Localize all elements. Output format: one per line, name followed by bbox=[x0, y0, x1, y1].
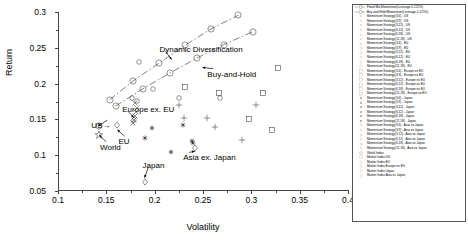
legend-marker-icon bbox=[354, 173, 367, 178]
chart-annotation: Europe ex. EU bbox=[122, 105, 174, 114]
chart-annotation: Dynamic Diversification bbox=[160, 45, 243, 54]
x-axis-tick-label: 0.25 bbox=[183, 195, 223, 205]
chart-annotation: Japan bbox=[143, 161, 165, 170]
chart-annotation: US→ bbox=[91, 121, 110, 130]
x-axis-tick-label: 0.15 bbox=[86, 195, 126, 205]
x-axis-tick-label: 0.35 bbox=[280, 195, 320, 205]
chart-annotation: Asia ex. Japan bbox=[183, 153, 235, 162]
legend-item[interactable]: Market Index:Asia ex Japan bbox=[353, 173, 465, 178]
plot-area: 0.050.10.150.20.250.30.10.150.20.250.30.… bbox=[58, 12, 348, 191]
x-axis-tick bbox=[348, 190, 349, 194]
y-axis-tick-label: 0.15 bbox=[6, 114, 46, 124]
x-axis-tick-label: 0.3 bbox=[231, 195, 271, 205]
annotation-arrows bbox=[58, 12, 348, 191]
chart-annotation: EU bbox=[118, 137, 129, 146]
y-axis-tick-label: 0.25 bbox=[6, 43, 46, 53]
x-axis-title: Volatility bbox=[186, 222, 219, 232]
y-axis-tick-label: 0.2 bbox=[6, 79, 46, 89]
chart-legend[interactable]: Fixed Mix Momentum(Leverage 0-125%) Buy … bbox=[352, 4, 466, 222]
chart-annotation: Buy-and-Hold bbox=[207, 70, 256, 79]
x-axis-tick-label: 0.1 bbox=[38, 195, 78, 205]
legend-label: Market Index:Asia ex Japan bbox=[367, 173, 405, 178]
x-axis-tick-label: 0.2 bbox=[135, 195, 175, 205]
y-axis-tick-label: 0.3 bbox=[6, 7, 46, 17]
y-axis-title: Return bbox=[4, 49, 14, 76]
y-axis-tick-label: 0.1 bbox=[6, 150, 46, 160]
chart-figure: Return Volatility 0.050.10.150.20.250.30… bbox=[0, 0, 468, 240]
